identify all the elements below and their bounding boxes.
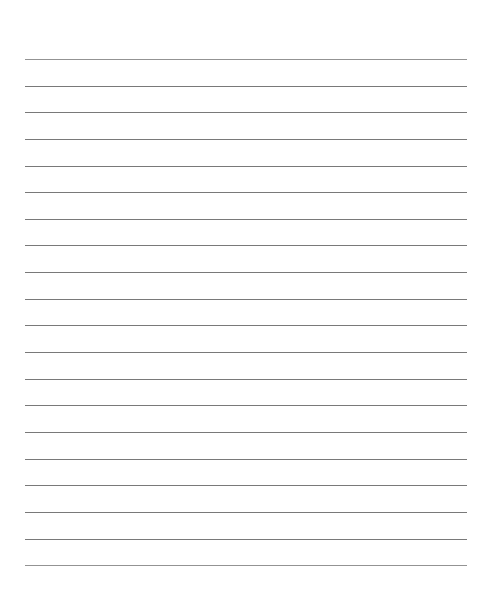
rule-line — [25, 405, 467, 406]
rule-line — [25, 539, 467, 540]
rule-line — [25, 512, 467, 513]
rule-line — [25, 432, 467, 433]
rule-line — [25, 272, 467, 273]
rule-line — [25, 139, 467, 140]
rule-line — [25, 112, 467, 113]
rule-line — [25, 565, 467, 566]
rule-line — [25, 219, 467, 220]
lined-paper-page — [0, 0, 488, 590]
rule-line — [25, 59, 467, 60]
rule-line — [25, 485, 467, 486]
rule-line — [25, 166, 467, 167]
rule-line — [25, 379, 467, 380]
rule-line — [25, 245, 467, 246]
rule-line — [25, 86, 467, 87]
rule-line — [25, 325, 467, 326]
ruled-lines-area — [0, 0, 488, 590]
rule-line — [25, 299, 467, 300]
rule-line — [25, 192, 467, 193]
rule-line — [25, 459, 467, 460]
rule-line — [25, 352, 467, 353]
